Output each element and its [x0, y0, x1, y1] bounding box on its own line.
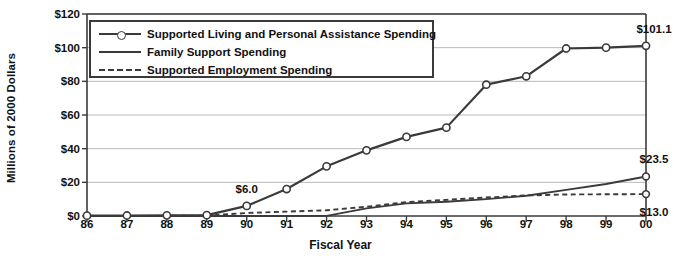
- x-axis-tick-label: 86: [81, 218, 94, 230]
- data-point-marker: [403, 133, 410, 140]
- x-axis-tick-label: 00: [640, 218, 653, 230]
- x-axis-tick-label: 90: [240, 218, 253, 230]
- legend-key-line-with-marker-icon: [97, 27, 143, 41]
- x-axis-tick-label: 99: [600, 218, 613, 230]
- legend-item-supported-living: Supported Living and Personal Assistance…: [97, 25, 432, 43]
- x-axis-tick-label: 97: [520, 218, 533, 230]
- data-point-marker: [483, 81, 490, 88]
- data-point-marker: [563, 45, 570, 52]
- data-point-marker: [363, 147, 370, 154]
- legend-label: Supported Living and Personal Assistance…: [147, 28, 436, 40]
- data-point-marker: [443, 124, 450, 131]
- data-point-marker: [643, 191, 650, 198]
- x-axis-tick-label: 93: [360, 218, 373, 230]
- x-axis-tick-label: 92: [320, 218, 333, 230]
- x-axis-tick-labels: 868788899091929394959697989900: [0, 218, 681, 238]
- series-line-supported-employment: [87, 194, 646, 216]
- legend-item-supported-employment: Supported Employment Spending: [97, 61, 432, 79]
- data-point-marker: [243, 202, 250, 209]
- x-axis-tick-label: 89: [200, 218, 213, 230]
- data-label-60: $6.0: [236, 183, 258, 195]
- x-axis-tick-label: 95: [440, 218, 453, 230]
- data-point-marker: [523, 73, 530, 80]
- legend-key-solid-line-icon: [97, 45, 143, 59]
- legend-label: Supported Employment Spending: [147, 64, 332, 76]
- data-label-130: $13.0: [640, 206, 669, 218]
- legend-key-dashed-line-icon: [97, 63, 143, 77]
- legend-label: Family Support Spending: [147, 46, 286, 58]
- data-point-marker: [643, 173, 650, 180]
- x-axis-tick-label: 91: [280, 218, 293, 230]
- x-axis-tick-label: 87: [121, 218, 134, 230]
- data-point-marker: [283, 185, 290, 192]
- data-point-marker: [602, 44, 609, 51]
- x-axis-tick-label: 94: [400, 218, 413, 230]
- data-label-235: $23.5: [640, 153, 669, 165]
- legend-item-family-support: Family Support Spending: [97, 43, 432, 61]
- chart-legend: Supported Living and Personal Assistance…: [89, 20, 434, 78]
- x-axis-title: Fiscal Year: [0, 238, 681, 252]
- chart-container: Millions of 2000 Dollars $0$20$40$60$80$…: [0, 0, 681, 261]
- x-axis-tick-label: 88: [160, 218, 173, 230]
- data-label-1011: $101.1: [636, 23, 671, 35]
- data-point-marker: [642, 42, 649, 49]
- x-axis-tick-label: 96: [480, 218, 493, 230]
- x-axis-tick-label: 98: [560, 218, 573, 230]
- data-point-marker: [323, 163, 330, 170]
